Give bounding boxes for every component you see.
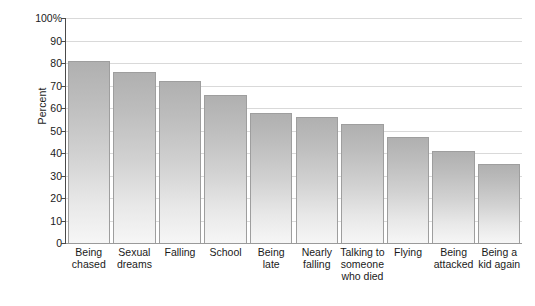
y-tick-label: 40 <box>2 148 62 158</box>
bar <box>204 95 247 244</box>
y-tick-label: 50 <box>2 126 62 136</box>
bars <box>66 18 522 243</box>
bar <box>341 124 384 243</box>
bar <box>478 164 521 243</box>
y-tick-label: 70 <box>2 81 62 91</box>
y-tick-label: 60 <box>2 103 62 113</box>
y-tick-label: 0 <box>2 238 62 248</box>
bar <box>250 113 293 244</box>
x-axis-labels: Being chasedSexual dreamsFallingSchoolBe… <box>66 246 522 304</box>
y-tick-label: 10 <box>2 216 62 226</box>
y-tick-label: 20 <box>2 193 62 203</box>
plot-area <box>66 18 522 243</box>
x-tick-label: Being a kid again <box>472 246 526 270</box>
y-tick-label: 80 <box>2 58 62 68</box>
y-tick-label: 30 <box>2 171 62 181</box>
bar <box>432 151 475 243</box>
bar <box>68 61 111 243</box>
bar <box>387 137 430 243</box>
bar <box>113 72 156 243</box>
y-tick-label: 100% <box>2 13 62 23</box>
y-axis-ticks: 0102030405060708090100% <box>0 0 62 306</box>
y-tick-label: 90 <box>2 36 62 46</box>
gridline <box>66 243 522 244</box>
bar <box>296 117 339 243</box>
bar <box>159 81 202 243</box>
bar-chart: Percent 0102030405060708090100% Being ch… <box>0 0 535 306</box>
